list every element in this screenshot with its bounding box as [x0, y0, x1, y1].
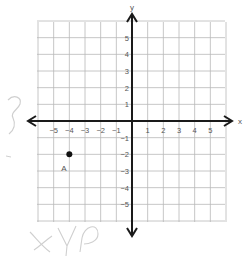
- x-tick-label: 4: [193, 126, 197, 135]
- coordinate-plane: −5−4−3−2−11234554321−1−2−3−4−5 A y x: [0, 0, 245, 259]
- x-tick-label: −1: [112, 126, 121, 135]
- x-axis-label: x: [238, 117, 242, 126]
- y-tick-label: 1: [125, 100, 129, 109]
- axes: [28, 14, 232, 236]
- handwriting-question: [80, 227, 98, 252]
- y-tick-label: 3: [125, 67, 129, 76]
- x-tick-label: −2: [96, 126, 105, 135]
- handwriting-squiggle: [8, 97, 20, 134]
- handwriting-dash: [6, 156, 11, 157]
- point-marker: [66, 151, 72, 157]
- y-tick-label: 4: [125, 50, 129, 59]
- x-tick-label: −5: [49, 126, 58, 135]
- x-tick-label: 2: [161, 126, 165, 135]
- x-tick-label: −3: [81, 126, 90, 135]
- x-tick-label: 5: [208, 126, 212, 135]
- point-label: A: [61, 164, 67, 173]
- x-tick-label: 1: [146, 126, 150, 135]
- y-tick-label: −2: [120, 150, 129, 159]
- x-tick-label: −4: [65, 126, 74, 135]
- y-tick-label: 5: [125, 34, 129, 43]
- y-tick-label: −1: [120, 134, 129, 143]
- y-tick-label: −5: [120, 200, 129, 209]
- y-tick-label: −3: [120, 167, 129, 176]
- handwriting-plus: [30, 232, 52, 252]
- x-tick-label: 3: [177, 126, 181, 135]
- y-axis-label: y: [130, 3, 134, 12]
- handwriting-y: [58, 226, 76, 256]
- coordinate-grid-svg: −5−4−3−2−11234554321−1−2−3−4−5 A y x: [0, 0, 245, 259]
- y-tick-label: 2: [125, 84, 129, 93]
- y-tick-label: −4: [120, 184, 129, 193]
